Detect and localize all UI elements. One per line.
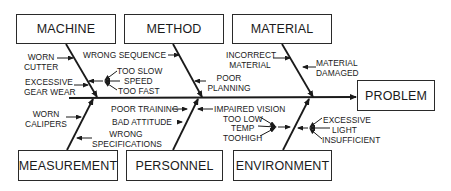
cause-line: GEAR WEAR — [24, 87, 74, 97]
sub-cause-too-slow: TOO SLOW — [117, 66, 162, 76]
spine-line — [69, 97, 356, 98]
category-environment: ENVIRONMENT — [233, 150, 332, 181]
cause-material-damaged: MATERIAL DAMAGED — [316, 58, 359, 78]
category-machine: MACHINE — [16, 14, 116, 44]
cause-line: EXCESSIVE — [24, 77, 74, 87]
cause-line: CALIPERS — [25, 119, 67, 129]
cause-worn-calipers: WORN CALIPERS — [25, 109, 67, 129]
cause-light: LIGHT — [332, 125, 357, 135]
cause-temp: TEMP — [231, 123, 254, 133]
cause-line: WORN — [24, 52, 58, 62]
cause-line: WORN — [25, 109, 67, 119]
cause-speed: SPEED — [124, 76, 153, 86]
cause-line: DAMAGED — [316, 68, 359, 78]
cause-line: MATERIAL — [316, 58, 359, 68]
cause-line: MATERIAL — [226, 60, 274, 70]
cause-line: WRONG — [92, 129, 160, 139]
category-measurement: MEASUREMENT — [18, 150, 118, 181]
cause-wrong-specifications: WRONG SPECIFICATIONS — [92, 129, 160, 149]
effect-problem: PROBLEM — [357, 80, 435, 111]
cause-impaired-vision: IMPAIRED VISION — [214, 104, 285, 114]
sub-cause-too-fast: TOO FAST — [118, 86, 160, 96]
sub-cause-too-high: TOOHIGH — [223, 133, 262, 143]
cause-line: CUTTER — [24, 62, 58, 72]
cause-wrong-sequence: WRONG SEQUENCE — [83, 50, 166, 60]
cause-line: POOR — [207, 73, 251, 83]
cause-line: SPECIFICATIONS — [92, 139, 160, 149]
material-rib — [282, 44, 313, 97]
sub-cause-insufficient-light: INSUFFICIENT — [322, 135, 380, 145]
environment-rib — [283, 99, 309, 150]
cause-line: INCORRECT — [226, 50, 274, 60]
cause-worn-cutter: WORN CUTTER — [24, 52, 58, 72]
cause-excessive-gear-wear: EXCESSIVE GEAR WEAR — [24, 77, 74, 97]
method-rib — [173, 44, 202, 97]
category-material: MATERIAL — [232, 14, 332, 44]
cause-poor-training: POOR TRAINING — [111, 104, 179, 114]
cause-poor-planning: POOR PLANNING — [207, 73, 251, 93]
cause-incorrect-material: INCORRECT MATERIAL — [226, 50, 274, 70]
cause-line: PLANNING — [207, 83, 251, 93]
measurement-rib — [67, 99, 93, 150]
cause-bad-attitude: BAD ATTITUDE — [112, 117, 172, 127]
category-personnel: PERSONNEL — [126, 150, 223, 181]
sub-cause-excessive-light: EXCESSIVE — [323, 115, 371, 125]
category-method: METHOD — [124, 14, 224, 44]
